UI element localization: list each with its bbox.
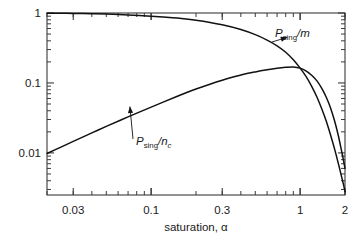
plot-frame: [47, 13, 345, 195]
annotation-sing-subscript: sing: [283, 33, 297, 42]
annotation-psing-over-nc: Psing/nc: [128, 107, 172, 151]
annotation-psing-over-m: Psing/m: [272, 27, 310, 42]
annotation-arrowhead: [128, 107, 133, 114]
x-axis-title: saturation, α: [164, 221, 228, 233]
x-tick-label: 0.3: [214, 204, 230, 216]
series-line-psing-over-nc: [47, 67, 345, 169]
x-tick-label: 2: [342, 204, 348, 216]
chart-figure: 10.10.01 0.030.10.312 Psing/m Psing/nc s…: [0, 0, 358, 248]
y-axis-ticks-left: [47, 13, 54, 189]
x-axis-ticks-bottom: [47, 188, 345, 195]
y-tick-label: 0.1: [25, 77, 41, 89]
x-tick-label: 1: [297, 204, 303, 216]
annotation-label-psing-over-nc: Psing/nc: [136, 135, 172, 150]
x-tick-label: 0.1: [143, 204, 159, 216]
series-line-psing-over-m: [47, 13, 345, 191]
annotation-sing-subscript: sing: [144, 141, 158, 150]
annotation-over-n: /n: [157, 135, 168, 147]
annotation-over-m: /m: [296, 27, 310, 39]
y-tick-label: 0.01: [19, 147, 41, 159]
chart-svg: 10.10.01 0.030.10.312 Psing/m Psing/nc s…: [0, 0, 358, 248]
y-axis-tick-labels: 10.10.01: [19, 7, 41, 159]
annotation-c-subscript: c: [168, 141, 172, 150]
x-tick-label: 0.03: [62, 204, 84, 216]
y-tick-label: 1: [35, 7, 41, 19]
x-axis-tick-labels: 0.030.10.312: [62, 204, 348, 216]
